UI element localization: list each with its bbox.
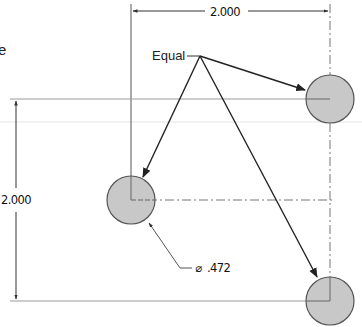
- technical-drawing: e 2.000 2.000 Equal: [0, 0, 362, 327]
- leader-to-bottom-right-hole: [200, 56, 317, 277]
- vertical-dimension: 2.000: [1, 101, 31, 299]
- partial-text: e: [0, 41, 6, 58]
- equal-note: Equal: [143, 48, 317, 277]
- diameter-value: .472: [207, 261, 230, 275]
- leader-to-middle-hole: [143, 56, 200, 177]
- equal-note-text: Equal: [152, 48, 185, 63]
- horizontal-dimension: 2.000: [133, 5, 328, 19]
- horizontal-dimension-value: 2.000: [210, 5, 240, 19]
- diameter-symbol: ⌀: [195, 261, 202, 275]
- vertical-dimension-value: 2.000: [1, 193, 31, 207]
- diameter-callout: ⌀ .472: [149, 223, 230, 275]
